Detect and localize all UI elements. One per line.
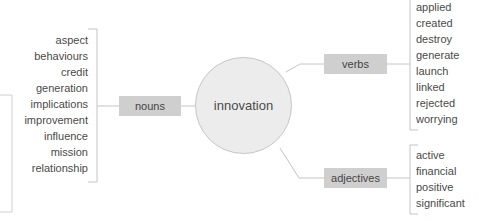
hub-label: innovation [214,98,273,113]
word: created [416,15,459,31]
word: applied [416,0,459,15]
word: rejected [416,95,459,111]
word: generate [416,47,459,63]
word: significant [416,195,465,211]
nouns-word-list: aspect behaviours credit generation impl… [24,32,88,176]
nouns-label: nouns [135,100,165,112]
word: positive [416,179,465,195]
hub-verbs-connector [286,64,324,72]
word: relationship [24,160,88,176]
word: mission [24,144,88,160]
word: aspect [24,32,88,48]
adjectives-word-list: active financial positive significant [416,147,465,211]
word: worrying [416,111,459,127]
word: improvement [24,112,88,128]
word: credit [24,64,88,80]
word: influence [24,128,88,144]
adjectives-label: adjectives [331,172,380,184]
hub-adjectives-connector [280,148,324,178]
word: active [416,147,465,163]
word: destroy [416,31,459,47]
partial-frame [0,95,12,212]
adjectives-node: adjectives [324,168,387,188]
nouns-bracket [88,29,97,182]
word: linked [416,79,459,95]
word: financial [416,163,465,179]
word: behaviours [24,48,88,64]
verbs-word-list: applied created destroy generate launch … [416,0,459,127]
nouns-node: nouns [119,96,181,116]
word: launch [416,63,459,79]
word: implications [24,96,88,112]
word: generation [24,80,88,96]
verbs-node: verbs [324,54,387,74]
verbs-label: verbs [342,58,369,70]
innovation-hub: innovation [195,57,292,154]
